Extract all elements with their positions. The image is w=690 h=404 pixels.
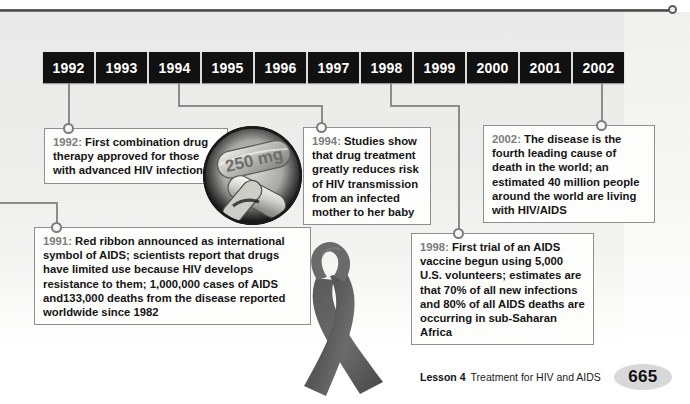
connector-1994-horizontal: [178, 105, 323, 107]
connector-1994-vertical-a: [178, 83, 180, 107]
connector-2002-vertical: [601, 83, 603, 125]
callout-1991-text: Red ribbon announced as international sy…: [43, 235, 285, 318]
year-cell-1994[interactable]: 1994: [149, 52, 200, 83]
callout-1991[interactable]: 1991: Red ribbon announced as internatio…: [34, 227, 311, 325]
connector-node-2002: [596, 120, 607, 131]
year-cell-1992[interactable]: 1992: [43, 52, 94, 83]
connector-node-1992: [63, 123, 74, 134]
connector-1991-horizontal: [0, 202, 58, 204]
year-cell-1999[interactable]: 1999: [414, 52, 465, 83]
callout-1991-year: 1991:: [43, 235, 72, 247]
footer-lesson-title: Treatment for HIV and AIDS: [471, 371, 601, 383]
callout-1994-text: Studies show that drug treatment greatly…: [312, 135, 419, 218]
year-bar: 1992 1993 1994 1995 1996 1997 1998 1999 …: [43, 52, 624, 83]
year-cell-1996[interactable]: 1996: [255, 52, 306, 83]
connector-1998-horizontal: [390, 105, 460, 107]
top-rule-end-cap-icon: [668, 5, 677, 14]
page-footer: Lesson 4 Treatment for HIV and AIDS 665: [420, 364, 672, 390]
footer-lesson-label: Lesson 4: [420, 371, 466, 383]
year-cell-1998[interactable]: 1998: [361, 52, 412, 83]
year-cell-2002[interactable]: 2002: [573, 52, 624, 83]
callout-1998[interactable]: 1998: First trial of an AIDS vaccine beg…: [411, 233, 594, 345]
callout-2002-year: 2002:: [492, 133, 521, 145]
year-cell-2000[interactable]: 2000: [467, 52, 518, 83]
capsule-photo: 250 mg: [203, 126, 302, 225]
connector-node-1994: [316, 122, 327, 133]
page-number-badge: 665: [614, 364, 672, 390]
connector-node-1998: [453, 228, 464, 239]
callout-1992-year: 1992:: [53, 136, 82, 148]
connector-1998-vertical-a: [390, 83, 392, 107]
connector-1992-vertical: [68, 83, 70, 128]
page-number: 665: [628, 367, 657, 387]
timeline-page: 1992 1993 1994 1995 1996 1997 1998 1999 …: [0, 0, 690, 404]
top-rule: [0, 9, 672, 12]
callout-2002[interactable]: 2002: The disease is the fourth leading …: [483, 125, 655, 223]
callout-1994-year: 1994:: [312, 135, 341, 147]
year-cell-1993[interactable]: 1993: [96, 52, 147, 83]
year-cell-2001[interactable]: 2001: [520, 52, 571, 83]
callout-2002-text: The disease is the fourth leading cause …: [492, 133, 640, 216]
callout-1998-text: First trial of an AIDS vaccine begun usi…: [420, 241, 585, 338]
year-cell-1995[interactable]: 1995: [202, 52, 253, 83]
year-cell-1997[interactable]: 1997: [308, 52, 359, 83]
connector-node-1991: [51, 222, 62, 233]
callout-1994[interactable]: 1994: Studies show that drug treatment g…: [303, 127, 431, 225]
connector-1998-vertical-b: [458, 105, 460, 233]
callout-1998-year: 1998:: [420, 241, 449, 253]
callout-1992[interactable]: 1992: First combination drug therapy app…: [44, 128, 228, 184]
